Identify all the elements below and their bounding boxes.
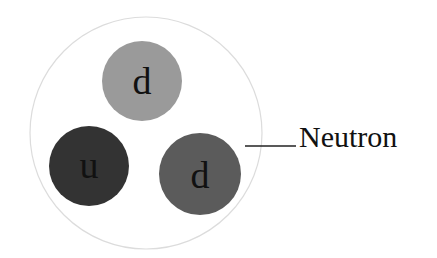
quark-u: u: [49, 126, 129, 206]
quark-label: d: [191, 154, 210, 196]
quark-label: d: [133, 60, 152, 102]
neutron-label: Neutron: [299, 120, 397, 153]
quark-d-top: d: [102, 41, 182, 121]
neutron-diagram: d u d Neutron: [0, 0, 437, 258]
quark-d-bottom: d: [159, 133, 241, 215]
quark-label: u: [80, 144, 99, 186]
